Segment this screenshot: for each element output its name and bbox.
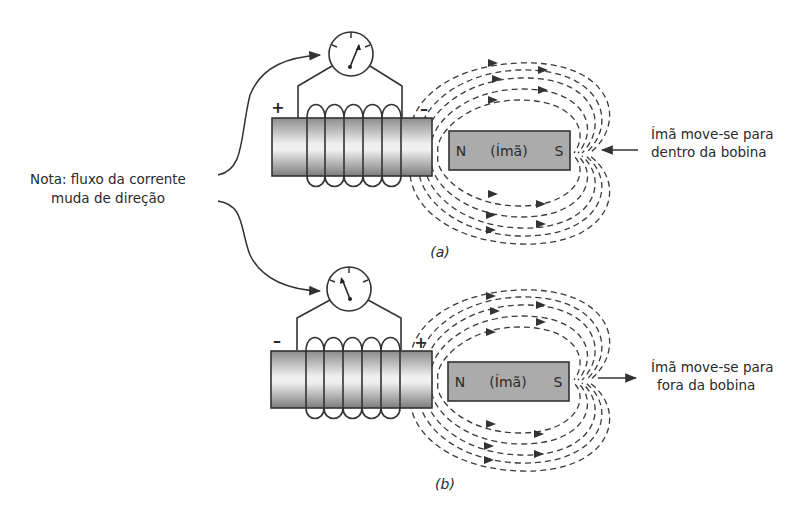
panel-a: + – N (Ímã) S Ímã move-se para dentro da… (271, 32, 773, 260)
svg-text:Nota: fluxo da corrente: Nota: fluxo da corrente (30, 171, 186, 187)
galvanometer-a (329, 32, 373, 76)
magnet-label-a: (Ímã) (490, 143, 527, 159)
magnet-south-a: S (555, 143, 564, 159)
caption-b: (b) (435, 476, 455, 492)
coil-sign-left-a: + (271, 98, 284, 117)
meter-wire-b-right (368, 300, 401, 350)
coil-sign-right-b: + (414, 333, 427, 352)
motion-label-a-line1: Ímã move-se para (651, 126, 774, 142)
coil-sign-right-a: – (420, 99, 428, 118)
coil-core-b (271, 351, 432, 408)
meter-wire-a-right (370, 66, 402, 118)
motion-label-b-line1: Ímã move-se para (651, 359, 774, 375)
note-label: Nota: fluxo da corrente muda de direção (30, 171, 186, 206)
motion-label-b-line2: fora da bobina (657, 377, 755, 393)
motion-label-a-line2: dentro da bobina (651, 144, 767, 160)
induction-diagram: Nota: fluxo da corrente muda de direção (0, 0, 806, 505)
magnet-south-b: S (554, 374, 563, 390)
coil-sign-left-b: – (273, 331, 281, 350)
svg-text:muda de direção: muda de direção (51, 190, 165, 206)
magnet-label-b: (Ímã) (489, 374, 526, 390)
magnet-north-a: N (456, 143, 466, 159)
galvanometer-b (327, 267, 371, 311)
caption-a: (a) (430, 244, 450, 260)
note-arrow-to-meter-b (218, 201, 320, 291)
magnet-north-b: N (455, 374, 465, 390)
coil-core-a (272, 118, 432, 176)
panel-b: – + N (Ímã) S Ímã move-se para fora da b… (271, 267, 774, 492)
